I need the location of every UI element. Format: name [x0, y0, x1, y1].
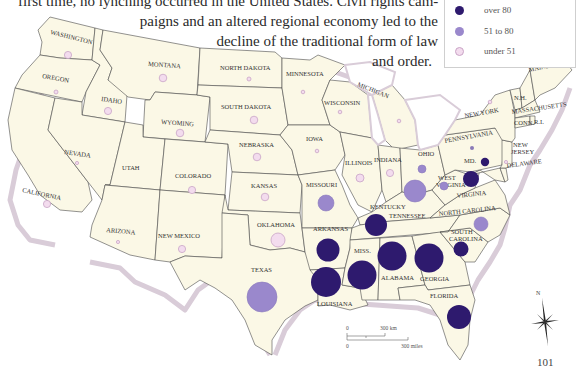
circle-south-dakota	[250, 116, 258, 124]
map-legend: over 80 51 to 80 under 51	[444, 0, 576, 68]
label-california: CALIFORNIA	[22, 186, 62, 201]
label-wisconsin: WISCONSIN	[324, 99, 360, 106]
legend-dot-under-51	[455, 47, 464, 56]
circle-ohio	[418, 165, 426, 173]
label-oregon: OREGON	[42, 72, 70, 84]
label-nevada: NEVADA	[64, 148, 92, 159]
compass-rose-icon: N	[531, 290, 559, 346]
legend-label-over-80: over 80	[484, 5, 511, 15]
circle-new-mexico	[178, 245, 185, 252]
label-south-dakota: SOUTH DAKOTA	[221, 103, 272, 110]
circle-oregon	[54, 90, 58, 94]
circle-virginia	[463, 171, 479, 187]
circle-michigan	[397, 119, 401, 123]
intro-paragraph-overlay: first time, no lynching occurred in the …	[0, 0, 438, 71]
circle-california	[43, 200, 50, 207]
circle-kentucky	[404, 180, 426, 202]
label-missouri: MISSOURI	[306, 181, 337, 188]
label-new-jersey-2: JERSEY	[511, 148, 534, 155]
circle-iowa	[315, 149, 319, 153]
circle-west-virginia	[440, 182, 448, 190]
circle-nebraska	[253, 153, 261, 161]
circle-georgia	[415, 244, 444, 273]
compass-north-label: N	[536, 290, 541, 296]
circle-pennsylvania	[470, 146, 474, 150]
circle-tennessee	[365, 214, 387, 236]
circle-arizona	[116, 240, 119, 243]
label-indiana: INDIANA	[374, 156, 402, 163]
intro-line-1: first time, no lynching occurred in the …	[18, 0, 438, 11]
circle-minnesota	[301, 90, 305, 94]
circle-maryland	[481, 158, 489, 166]
circle-missouri	[318, 195, 334, 211]
circle-wyoming	[176, 129, 184, 137]
label-new-mexico: NEW MEXICO	[158, 232, 200, 239]
circle-arkansas	[317, 239, 340, 262]
circle-kansas	[261, 193, 269, 201]
circle-oklahoma	[271, 233, 285, 247]
label-north-carolina: NORTH CAROLINA	[438, 204, 496, 217]
circle-indiana	[386, 169, 393, 176]
page-number: 101	[537, 356, 554, 368]
label-kansas: KANSAS	[251, 182, 277, 189]
circle-colorado	[188, 186, 195, 193]
label-utah: UTAH	[122, 164, 140, 171]
scale-km-zero: 0	[346, 325, 349, 331]
label-iowa: IOWA	[306, 135, 323, 142]
legend-item-51-to-80: 51 to 80	[455, 26, 514, 36]
label-md: MD.	[464, 157, 476, 164]
scale-bar	[347, 333, 408, 340]
label-arkansas: ARKANSAS	[313, 225, 348, 232]
label-louisiana: LOUISIANA	[317, 300, 353, 307]
circle-delaware	[504, 160, 507, 163]
label-new-jersey-1: NEW	[513, 141, 529, 148]
label-michigan: MICHIGAN	[357, 80, 391, 99]
scale-km-label: 300 km	[380, 325, 397, 331]
circle-wisconsin	[338, 110, 342, 114]
legend-dot-51-to-80	[455, 27, 464, 36]
circle-florida	[447, 305, 471, 329]
label-massachusetts: MASSACHUSETTS	[511, 100, 567, 115]
circle-illinois	[356, 174, 364, 182]
label-nh: N.H.	[514, 94, 527, 101]
label-south-carolina-2: CAROLINA	[449, 235, 483, 242]
circle-mississippi	[348, 261, 377, 290]
circle-louisiana	[311, 267, 341, 297]
legend-label-under-51: under 51	[484, 46, 516, 56]
scale-mi-zero: 0	[346, 343, 349, 349]
scale-labels: 0 300 km 0 300 miles	[346, 325, 423, 349]
circle-idaho	[104, 107, 111, 114]
circle-south-carolina	[454, 242, 469, 257]
scale-mi-label: 300 miles	[401, 343, 423, 349]
legend-item-under-51: under 51	[455, 46, 516, 56]
label-west-virginia-1: WEST	[438, 174, 456, 181]
label-florida: FLORIDA	[430, 292, 458, 299]
label-idaho: IDAHO	[101, 95, 123, 105]
label-tennessee: TENNESSEE	[389, 212, 426, 219]
label-illinois: ILLINOIS	[345, 159, 373, 166]
circle-nevada	[75, 161, 78, 164]
label-new-york: NEW YORK	[464, 106, 499, 119]
label-nebraska: NEBRASKA	[239, 141, 274, 148]
label-south-carolina-1: SOUTH	[451, 228, 473, 235]
legend-label-51-to-80: 51 to 80	[484, 26, 514, 36]
circle-new-york	[488, 100, 492, 104]
legend-dot-over-80	[455, 6, 464, 15]
label-delaware: DELAWARE	[506, 157, 542, 169]
label-ri: R.I.	[534, 118, 544, 125]
label-pennsylvania: PENNSYLVANIA	[444, 129, 494, 144]
circle-alabama	[378, 242, 407, 271]
label-ohio: OHIO	[418, 150, 435, 157]
label-kentucky: KENTUCKY	[370, 203, 406, 210]
label-colorado: COLORADO	[175, 172, 211, 179]
circle-montana	[159, 74, 167, 82]
intro-line-3: decline of the traditional form of law	[0, 31, 438, 51]
label-arizona: ARIZONA	[106, 226, 136, 236]
label-oklahoma: OKLAHOMA	[257, 221, 295, 228]
label-minnesota: MINNESOTA	[286, 70, 324, 77]
legend-item-over-80: over 80	[455, 5, 511, 15]
circle-texas	[247, 282, 277, 312]
circle-north-carolina	[474, 217, 488, 231]
intro-line-2: paigns and an altered regional economy l…	[0, 11, 438, 31]
label-miss: MISS.	[354, 247, 371, 254]
